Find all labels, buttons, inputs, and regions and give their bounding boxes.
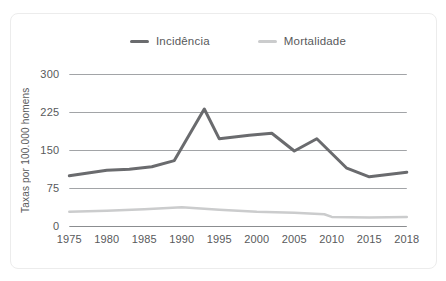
x-tick-label: 2018 [394, 233, 419, 245]
x-tick-label: 2005 [282, 233, 307, 245]
x-tick-label: 1990 [169, 233, 194, 245]
x-tick-label: 2015 [357, 233, 382, 245]
y-tick-label: 150 [40, 144, 59, 156]
x-tick-label: 1975 [57, 233, 82, 245]
y-tick-label: 300 [40, 68, 59, 80]
chart-card: Incidência Mortalidade Taxas por 100.000… [10, 13, 437, 269]
y-tick-label: 75 [47, 182, 60, 194]
x-tick-label: 2000 [244, 233, 269, 245]
x-tick-label: 1980 [94, 233, 119, 245]
x-tick-label: 1995 [207, 233, 232, 245]
y-tick-label: 0 [53, 220, 59, 232]
incidencia-line [69, 109, 407, 177]
x-tick-label: 1985 [132, 233, 157, 245]
line-chart-plot: 0751502253001975198019851990199520002005… [11, 14, 438, 269]
y-tick-label: 225 [40, 106, 59, 118]
x-tick-label: 2010 [319, 233, 344, 245]
mortalidade-line [69, 207, 407, 217]
